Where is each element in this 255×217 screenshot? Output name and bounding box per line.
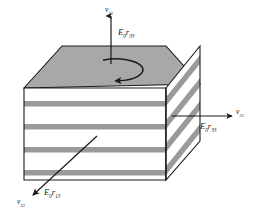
figure-container: v33 E0r33 v33 E0r33 v33 E0r13	[0, 0, 255, 217]
block-front-face	[22, 88, 168, 180]
diagonal-field-label: E0r13	[44, 188, 60, 199]
vertical-field-label: E0r33	[118, 28, 134, 39]
vertical-velocity-label: v33	[105, 6, 113, 16]
diagonal-velocity-label: v33	[17, 198, 25, 208]
horizontal-velocity-label: v33	[236, 108, 244, 118]
horizontal-field-label: E0r33	[200, 122, 216, 133]
